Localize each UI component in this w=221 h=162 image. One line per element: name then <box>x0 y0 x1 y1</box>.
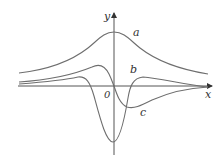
origin-label: 0 <box>104 89 111 100</box>
x-axis-label: x <box>205 88 212 101</box>
curve-b-label: b <box>130 63 137 76</box>
y-axis-label: y <box>103 10 111 23</box>
curve-c-label: c <box>140 106 146 119</box>
function-derivatives-diagram: y x 0 a b c <box>0 0 221 162</box>
curve-a-label: a <box>133 26 140 39</box>
